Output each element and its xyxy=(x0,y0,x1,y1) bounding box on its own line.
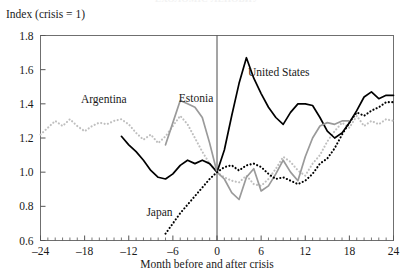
series-annotation-united-states: United States xyxy=(248,66,310,78)
y-tick-label: 1.6 xyxy=(19,64,34,76)
x-tick-label: –6 xyxy=(166,245,179,257)
x-tick-label: –18 xyxy=(75,245,94,257)
y-tick-label: 1.0 xyxy=(19,166,34,178)
cropped-header-text: ЕХОЛОМІС ЛЕПОВИУ xyxy=(0,0,414,2)
x-tick-label: 18 xyxy=(344,245,356,257)
y-axis-caption: Index (crisis = 1) xyxy=(6,8,85,20)
x-tick-label: 6 xyxy=(258,245,264,257)
x-tick-label: 24 xyxy=(388,245,400,257)
y-tick-label: 1.8 xyxy=(19,30,34,42)
figure-container: ЕХОЛОМІС ЛЕПОВИУ Index (crisis = 1) –24–… xyxy=(0,0,414,280)
series-annotation-japan: Japan xyxy=(146,206,172,219)
x-tick-label: 12 xyxy=(300,245,312,257)
series-annotation-argentina: Argentina xyxy=(81,93,127,106)
y-tick-label: 1.4 xyxy=(19,98,34,110)
x-axis-caption: Month before and after crisis xyxy=(0,258,414,270)
y-tick-label: 1.2 xyxy=(19,132,34,144)
y-tick-label: 0.6 xyxy=(19,235,34,247)
series-annotation-estonia: Estonia xyxy=(179,92,214,104)
line-chart: –24–18–12–6061218240.60.81.01.21.41.61.8… xyxy=(0,0,414,280)
y-tick-label: 0.8 xyxy=(19,200,34,212)
x-tick-label: –24 xyxy=(31,245,50,257)
x-tick-label: 0 xyxy=(214,245,220,257)
x-tick-label: –12 xyxy=(119,245,138,257)
